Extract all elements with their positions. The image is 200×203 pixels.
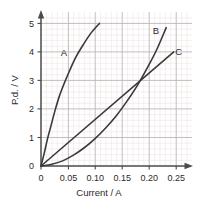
y-tick-labels: 0 1 2 3 4 5 — [29, 19, 34, 172]
x-tick-labels: 0 0.05 0.10 0.15 0.20 0.25 — [38, 173, 184, 183]
x-tick-label-1: 0.05 — [60, 173, 78, 183]
chart-figure: 0 1 2 3 4 5 0 0.05 0.10 0.15 0.20 0.25 C… — [0, 0, 200, 203]
y-axis-label: P.d. / V — [9, 74, 20, 105]
x-tick-label-5: 0.25 — [167, 173, 185, 183]
x-tick-label-4: 0.20 — [140, 173, 158, 183]
x-tick-label-3: 0.15 — [113, 173, 131, 183]
curve-label-A: A — [61, 47, 68, 58]
y-tick-label-3: 3 — [29, 76, 34, 86]
x-tick-label-2: 0.10 — [86, 173, 104, 183]
y-axis-arrowhead — [38, 10, 44, 19]
curve-label-B: B — [153, 25, 159, 36]
y-tick-label-1: 1 — [29, 133, 34, 143]
iv-characteristics-chart: 0 1 2 3 4 5 0 0.05 0.10 0.15 0.20 0.25 C… — [0, 0, 200, 203]
data-curves — [41, 23, 174, 166]
y-tick-label-5: 5 — [29, 19, 34, 29]
y-tick-label-0: 0 — [29, 161, 34, 171]
curve-label-C: C — [175, 46, 182, 57]
y-tick-label-2: 2 — [29, 104, 34, 114]
curve-A — [41, 23, 99, 166]
minor-gridlines — [41, 12, 192, 166]
x-axis-label: Current / A — [76, 187, 122, 198]
x-axis-arrowhead — [185, 163, 194, 169]
y-tick-label-4: 4 — [29, 47, 34, 57]
x-tick-label-0: 0 — [38, 173, 43, 183]
